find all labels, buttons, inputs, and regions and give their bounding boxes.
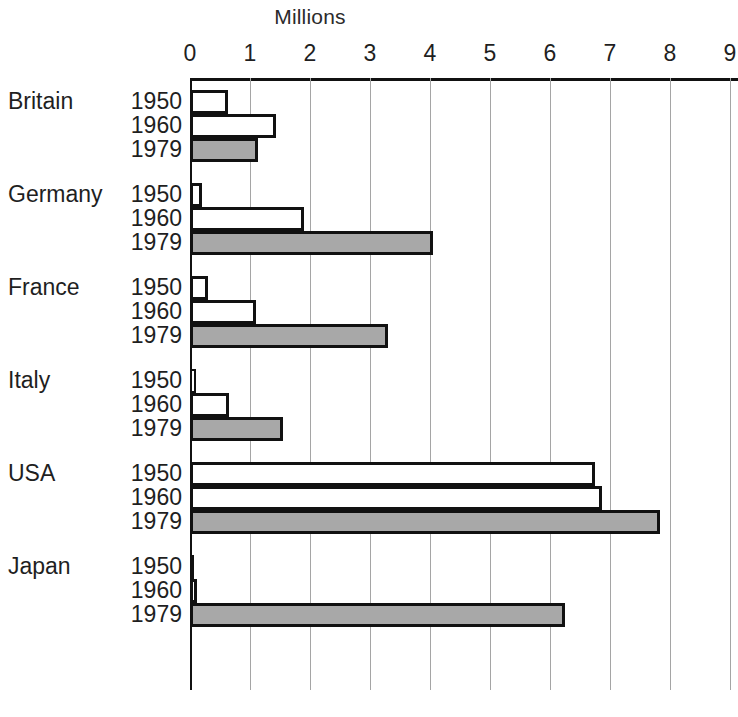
bar-japan-1979 (190, 603, 565, 627)
country-label-britain: Britain (8, 88, 73, 115)
bar-britain-1950 (190, 90, 228, 114)
x-tick-label-9: 9 (715, 40, 738, 67)
bar-france-1960 (190, 300, 256, 324)
x-tick-label-5: 5 (475, 40, 505, 67)
country-label-japan: Japan (8, 553, 71, 580)
year-label-germany-1960: 1960 (131, 205, 182, 232)
year-label-france-1950: 1950 (131, 274, 182, 301)
bar-france-1950 (190, 276, 208, 300)
row-label-column: 195019601979Britain195019601979Germany19… (0, 78, 190, 690)
gridline-8 (670, 78, 671, 690)
gridline-1 (250, 78, 251, 690)
gridline-6 (550, 78, 551, 690)
bar-italy-1979 (190, 417, 283, 441)
year-label-usa-1960: 1960 (131, 484, 182, 511)
bar-usa-1950 (190, 462, 595, 486)
chart-title: Millions (0, 5, 620, 29)
bar-britain-1960 (190, 114, 276, 138)
x-tick-label-4: 4 (415, 40, 445, 67)
bar-britain-1979 (190, 138, 258, 162)
gridline-2 (310, 78, 311, 690)
year-label-britain-1960: 1960 (131, 112, 182, 139)
x-tick-label-0: 0 (175, 40, 205, 67)
year-label-japan-1979: 1979 (131, 601, 182, 628)
bar-japan-1960 (190, 579, 197, 603)
x-tick-label-7: 7 (595, 40, 625, 67)
bar-usa-1960 (190, 486, 602, 510)
year-label-france-1979: 1979 (131, 322, 182, 349)
bar-japan-1950 (190, 555, 194, 579)
x-axis-tick-labels: 0123456789 (0, 40, 738, 68)
gridline-3 (370, 78, 371, 690)
country-label-france: France (8, 274, 80, 301)
gridline-5 (490, 78, 491, 690)
year-label-japan-1960: 1960 (131, 577, 182, 604)
year-label-japan-1950: 1950 (131, 553, 182, 580)
gridline-4 (430, 78, 431, 690)
x-tick-label-1: 1 (235, 40, 265, 67)
bar-italy-1960 (190, 393, 229, 417)
plot-area (190, 78, 738, 690)
bar-italy-1950 (190, 369, 196, 393)
bar-germany-1960 (190, 207, 304, 231)
gridline-9 (730, 78, 731, 690)
bar-germany-1950 (190, 183, 202, 207)
year-label-germany-1950: 1950 (131, 181, 182, 208)
year-label-britain-1979: 1979 (131, 136, 182, 163)
x-tick-label-8: 8 (655, 40, 685, 67)
country-label-usa: USA (8, 460, 55, 487)
bar-usa-1979 (190, 510, 660, 534)
x-tick-label-3: 3 (355, 40, 385, 67)
x-tick-label-6: 6 (535, 40, 565, 67)
bar-france-1979 (190, 324, 388, 348)
year-label-britain-1950: 1950 (131, 88, 182, 115)
year-label-italy-1950: 1950 (131, 367, 182, 394)
country-label-germany: Germany (8, 181, 103, 208)
country-label-italy: Italy (8, 367, 50, 394)
year-label-italy-1960: 1960 (131, 391, 182, 418)
x-axis-line (190, 78, 738, 81)
bar-germany-1979 (190, 231, 433, 255)
year-label-france-1960: 1960 (131, 298, 182, 325)
year-label-usa-1979: 1979 (131, 508, 182, 535)
gridline-7 (610, 78, 611, 690)
year-label-usa-1950: 1950 (131, 460, 182, 487)
year-label-italy-1979: 1979 (131, 415, 182, 442)
x-tick-label-2: 2 (295, 40, 325, 67)
year-label-germany-1979: 1979 (131, 229, 182, 256)
